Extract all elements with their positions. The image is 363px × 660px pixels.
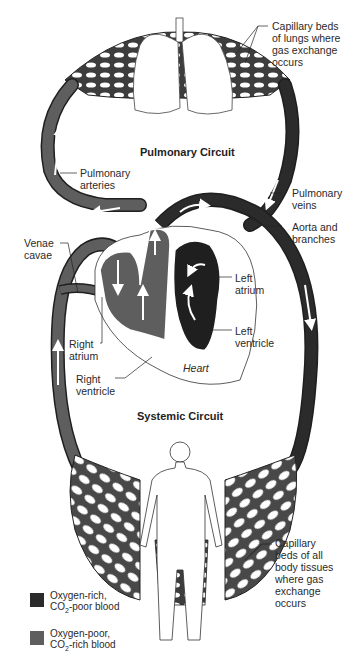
label-aorta: Aorta and branches xyxy=(292,221,338,245)
pulmonary-arteries xyxy=(48,85,140,212)
pulmonary-veins xyxy=(250,85,293,225)
label-left-atrium: Left atrium xyxy=(235,272,264,296)
legend-item-oxygen-poor: Oxygen-poor, CO2-rich blood xyxy=(30,628,120,654)
legend-oxygen-rich-line1: Oxygen-rich, xyxy=(50,590,107,601)
label-right-ventricle: Right ventricle xyxy=(76,373,115,397)
title-systemic-circuit: Systemic Circuit xyxy=(137,410,223,422)
label-capillary-lungs: Capillary beds of lungs where gas exchan… xyxy=(272,20,340,68)
legend: Oxygen-rich, CO2-poor blood Oxygen-poor,… xyxy=(30,590,120,660)
legend-oxygen-poor-line1: Oxygen-poor, xyxy=(50,628,110,639)
label-venae-cavae: Venae cavae xyxy=(24,237,54,261)
title-pulmonary-circuit: Pulmonary Circuit xyxy=(140,146,235,158)
label-capillary-body: Capillary beds of all body tissues where… xyxy=(275,537,333,609)
label-pulmonary-arteries: Pulmonary arteries xyxy=(80,167,130,191)
label-right-atrium: Right atrium xyxy=(69,338,98,362)
swatch-oxygen-poor xyxy=(30,631,44,645)
label-pulmonary-veins: Pulmonary veins xyxy=(292,187,342,211)
legend-item-oxygen-rich: Oxygen-rich, CO2-poor blood xyxy=(30,590,120,616)
human-figure-icon xyxy=(140,442,222,640)
heart xyxy=(95,226,257,384)
label-left-ventricle: Left ventricle xyxy=(235,325,274,349)
swatch-oxygen-rich xyxy=(30,593,44,607)
label-heart: Heart xyxy=(183,362,209,374)
